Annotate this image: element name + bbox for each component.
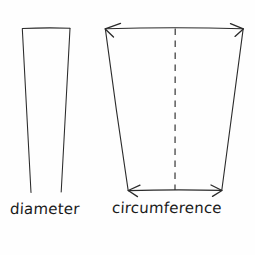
circumference-left-edge — [105, 29, 128, 191]
circumference-right-edge — [222, 29, 243, 191]
top-right-arrowhead-icon — [231, 24, 244, 37]
diameter-left-edge — [22, 29, 31, 193]
diagram-canvas: diameter circumference — [0, 0, 255, 255]
diameter-shape-group — [22, 28, 70, 193]
diameter-top-edge — [23, 28, 71, 29]
label-diameter: diameter — [10, 200, 81, 218]
top-left-arrowhead-icon — [105, 23, 120, 37]
circumference-shape-group — [105, 23, 243, 196]
label-circumference: circumference — [112, 199, 223, 217]
circumference-bottom-edge — [129, 190, 222, 191]
diameter-right-edge — [61, 28, 70, 192]
circumference-top-edge — [106, 28, 243, 29]
